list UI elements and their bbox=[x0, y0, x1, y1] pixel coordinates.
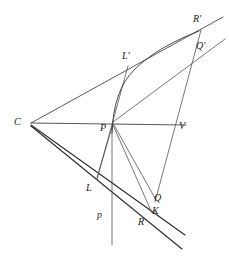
point-label-Q: Q bbox=[154, 193, 161, 203]
point-label-R-prime: R' bbox=[193, 14, 201, 24]
point-label-V: V bbox=[179, 121, 185, 131]
point-label-C: C bbox=[14, 117, 21, 127]
point-label-K: K bbox=[152, 206, 159, 216]
point-label-P: P bbox=[100, 123, 106, 133]
geometry-figure: C P V L' R' Q' L Q K R p bbox=[0, 0, 229, 268]
chord-Qprime-Q bbox=[155, 30, 201, 202]
point-label-L: L bbox=[86, 183, 92, 193]
figure-canvas bbox=[0, 0, 229, 268]
point-label-L-prime: L' bbox=[122, 51, 130, 61]
point-label-p: p bbox=[97, 210, 102, 220]
conic-arc bbox=[112, 31, 199, 133]
segment-P-K bbox=[113, 125, 152, 213]
point-label-Q-prime: Q' bbox=[196, 41, 205, 51]
point-label-R: R bbox=[138, 217, 144, 227]
axis-line-CV bbox=[31, 123, 186, 125]
